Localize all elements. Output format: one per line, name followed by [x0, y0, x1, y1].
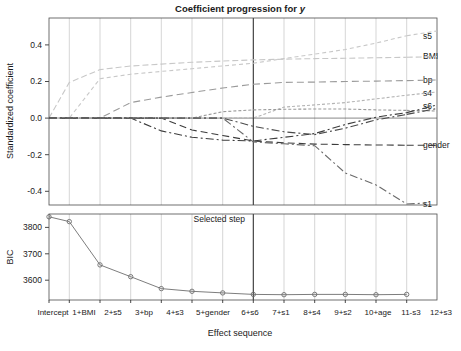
- coefficient-ytick-2: 0.0: [30, 113, 42, 123]
- bic-x-ticks: [49, 300, 407, 303]
- figure-container: Coefficient progression for y: [0, 0, 461, 351]
- page-title-text: Coefficient progression for: [175, 3, 300, 14]
- bic-panel-frame: [49, 214, 437, 300]
- chart-svg: Coefficient progression for y: [0, 0, 461, 351]
- bic-series-line: [49, 217, 407, 295]
- xcat-label-2: 2+s5: [104, 308, 122, 317]
- xcat-label-12: 12+s3: [430, 308, 453, 317]
- xcat-label-9: 9+s2: [334, 308, 352, 317]
- series-path-s6: [49, 109, 407, 118]
- coefficient-paths: [49, 36, 407, 204]
- page-title-italic: y: [299, 3, 306, 14]
- xcat-label-11: 11-s3: [401, 308, 421, 317]
- bic-y-ticks: [45, 227, 49, 280]
- coefficient-ytick-1: 0.2: [30, 76, 42, 86]
- xcat-label-0: Intercept: [37, 308, 69, 317]
- bic-series-markers: [47, 215, 409, 297]
- series-path-BMI: [49, 57, 407, 118]
- xcat-label-4: 4+s3: [166, 308, 184, 317]
- selected-step-annotation: Selected step: [193, 214, 245, 224]
- coefficient-ytick-0: 0.4: [30, 40, 42, 50]
- series-label-s1: s1: [423, 199, 432, 209]
- coefficient-ytick-3: -0.2: [27, 150, 42, 160]
- bic-ytick-0: 3800: [23, 222, 42, 232]
- xcat-label-3: 3+bp: [135, 308, 154, 317]
- xcat-label-10: 10+age: [365, 308, 392, 317]
- bic-ytick-2: 3600: [23, 275, 42, 285]
- bic-panel: Selected step 3800 3700 3600 BIC: [5, 214, 453, 338]
- xcat-label-7: 7+s1: [272, 308, 290, 317]
- series-path-s1: [49, 118, 407, 204]
- series-path-s5: [49, 36, 407, 118]
- page-title: Coefficient progression for y: [175, 3, 306, 14]
- xcat-label-6: 6+s6: [241, 308, 259, 317]
- series-path-s4: [49, 95, 407, 118]
- coefficient-panel: 0.4 0.2 0.0 -0.2 -0.4 Standardized coeff…: [5, 18, 450, 209]
- coefficient-y-ticks: [45, 45, 49, 191]
- series-path-bp: [49, 81, 407, 119]
- coefficient-y-axis-title: Standardized coefficient: [5, 63, 15, 159]
- xcat-label-8: 8+s4: [303, 308, 321, 317]
- bic-y-axis-title: BIC: [5, 249, 15, 265]
- coefficient-panel-frame: [49, 18, 437, 205]
- coefficient-ytick-4: -0.4: [27, 186, 42, 196]
- bic-ytick-1: 3700: [23, 249, 42, 259]
- series-path-s2-mid: [49, 114, 407, 134]
- bic-gridlines: [69, 214, 406, 300]
- xcat-label-5: 5+gender: [196, 308, 230, 317]
- series-label-gender: gender: [423, 140, 450, 150]
- xcat-label-1: 1+BMI: [72, 308, 95, 317]
- bic-x-axis-title: Effect sequence: [208, 328, 272, 338]
